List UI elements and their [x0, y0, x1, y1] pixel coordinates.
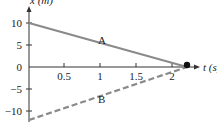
series-b-line — [29, 67, 187, 120]
y-tick-label: 0 — [17, 61, 23, 73]
y-axis-arrow-icon — [27, 6, 32, 12]
x-ticks: 0.5 1 1.5 2 — [57, 63, 175, 82]
x-tick-label: 1.5 — [129, 70, 143, 82]
x-tick-label: 1 — [97, 70, 103, 82]
intersection-point-icon — [184, 62, 190, 68]
series-b-label: B — [98, 93, 105, 105]
y-tick-label: 10 — [11, 17, 23, 29]
series-a-line — [29, 23, 187, 67]
y-tick-label: 5 — [17, 39, 23, 51]
y-tick-label: −10 — [5, 105, 23, 117]
y-tick-label: −5 — [10, 83, 22, 95]
y-axis-label: x (m) — [29, 0, 53, 7]
series-a-label: A — [98, 34, 106, 46]
y-ticks: 10 5 0 −5 −10 — [5, 17, 32, 117]
x-axis-arrow-icon — [194, 65, 200, 70]
x-tick-label: 0.5 — [57, 70, 71, 82]
x-axis-label: t (s) — [203, 61, 217, 74]
position-time-chart: x (m) t (s) 10 5 0 −5 −10 0.5 1 1.5 2 A … — [0, 0, 217, 125]
